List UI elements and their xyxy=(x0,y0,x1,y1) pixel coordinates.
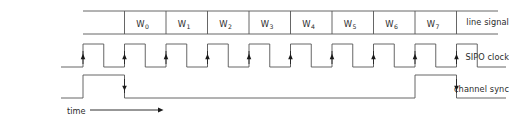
clock-rising-edge-marker xyxy=(288,51,293,64)
line-signal-cell-label: W6 xyxy=(385,19,398,30)
line-signal-cell-label: W5 xyxy=(344,19,357,30)
time-arrow-head xyxy=(158,107,164,112)
clock-rising-edge-marker xyxy=(413,51,418,64)
clock-rising-edge-marker xyxy=(205,51,210,64)
sipo-clock-waveform xyxy=(61,44,506,67)
channel-sync-waveform xyxy=(61,75,506,98)
timing-diagram: line signal SIPO clock channel sync time… xyxy=(0,0,509,124)
line-signal-cell-label: W0 xyxy=(136,19,149,30)
clock-rising-edge-marker xyxy=(164,51,169,64)
clock-rising-edge-marker xyxy=(330,51,335,64)
clock-rising-edge-marker xyxy=(122,51,127,64)
clock-rising-edge-marker xyxy=(371,51,376,64)
clock-rising-edge-marker xyxy=(81,51,86,64)
channel-sync-trace xyxy=(61,75,506,98)
clock-rising-edge-marker xyxy=(454,51,459,64)
line-signal-cell-label: W4 xyxy=(302,19,315,30)
line-signal-waveform: W0W1W2W3W4W5W6W7 xyxy=(83,11,498,34)
line-signal-cell-label: W1 xyxy=(178,19,191,30)
sipo-clock-trace xyxy=(61,44,506,67)
line-signal-cell-label: W7 xyxy=(427,19,440,30)
time-axis-arrow xyxy=(90,107,164,112)
line-signal-cell-label: W3 xyxy=(261,19,274,30)
waveform-canvas: W0W1W2W3W4W5W6W7 xyxy=(0,0,509,124)
channel-sync-falling-edge-marker xyxy=(122,79,127,93)
channel-sync-falling-edge-marker xyxy=(454,79,459,93)
line-signal-cell-label: W2 xyxy=(219,19,232,30)
clock-rising-edge-marker xyxy=(247,51,252,64)
